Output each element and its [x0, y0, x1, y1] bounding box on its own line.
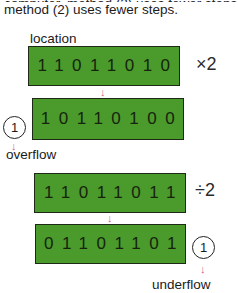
register-original-multiply: 11011010	[28, 46, 180, 86]
register-bits: 11011011	[44, 183, 184, 203]
register-bits: 10110100	[41, 109, 183, 129]
register-shifted-right: 01101101	[35, 224, 186, 264]
shift-down-arrow-icon: ↓	[100, 87, 106, 97]
underflow-arrow-icon: ↓	[200, 264, 206, 274]
register-bits: 11011010	[37, 56, 178, 76]
register-bits: 01101101	[44, 234, 185, 254]
divide-by-two-label: ÷2	[195, 180, 215, 201]
underflow-label: underflow	[152, 277, 211, 292]
overflow-bit: 1	[11, 120, 18, 135]
intro-text: computer, method (2) uses fewer steps. m…	[4, 0, 238, 17]
location-label: location	[30, 31, 77, 46]
register-original-divide: 11011011	[34, 173, 186, 213]
underflow-bit: 1	[200, 240, 207, 255]
intro-line: method (2) uses fewer steps.	[4, 2, 178, 17]
underflow-bit-circle: 1	[192, 236, 215, 259]
overflow-bit-circle: 1	[3, 116, 26, 139]
multiply-by-two-label: ×2	[196, 54, 217, 75]
overflow-label: overflow	[6, 147, 56, 162]
register-shifted-left: 10110100	[32, 98, 184, 140]
shift-down-arrow-icon: ↓	[107, 213, 113, 223]
